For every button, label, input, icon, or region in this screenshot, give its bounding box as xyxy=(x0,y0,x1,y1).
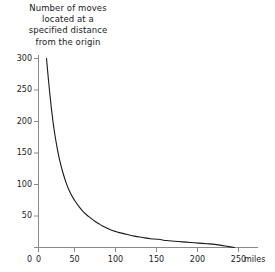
y-axis-group xyxy=(34,55,39,248)
chart-plot-area xyxy=(0,0,275,272)
y-tick-label-200: 200 xyxy=(10,117,32,126)
chart-figure: Number of moves located at a specified d… xyxy=(0,0,275,272)
x-tick-label-50: 50 xyxy=(63,255,87,264)
x-axis-ticks xyxy=(39,248,239,253)
y-tick-label-100: 100 xyxy=(10,180,32,189)
y-tick-label-250: 250 xyxy=(10,85,32,94)
x-tick-label-100: 100 xyxy=(104,255,128,264)
x-tick-label-150: 150 xyxy=(145,255,169,264)
x-tick-label-200: 200 xyxy=(186,255,210,264)
decay-curve-line xyxy=(47,59,235,248)
y-tick-label-150: 150 xyxy=(10,148,32,157)
y-tick-label-50: 50 xyxy=(10,211,32,220)
y-tick-label-300: 300 xyxy=(10,54,32,63)
x-tick-label-0: 0 xyxy=(27,255,51,264)
y-axis-ticks xyxy=(34,59,39,248)
x-axis-unit-label: miles xyxy=(244,255,265,264)
x-axis-group xyxy=(39,248,259,253)
